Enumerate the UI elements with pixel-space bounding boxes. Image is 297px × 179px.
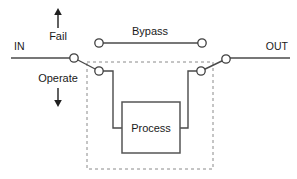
operate-label: Operate <box>38 72 78 84</box>
left-process-connector <box>99 71 122 128</box>
left-switch-contact-terminal[interactable] <box>95 67 103 75</box>
bypass-left-terminal[interactable] <box>95 39 103 47</box>
bypass-label: Bypass <box>132 25 169 37</box>
process-bypass-switch-diagram: IN OUT Bypass Fail Operate Process <box>0 0 297 179</box>
right-switch-contact-terminal[interactable] <box>197 67 205 75</box>
output-label: OUT <box>266 40 289 52</box>
right-switch-pivot-terminal[interactable] <box>222 55 230 63</box>
operate-arrow-head-icon <box>54 100 62 107</box>
fail-arrow-head-icon <box>54 8 62 15</box>
right-process-connector <box>180 71 201 128</box>
input-label: IN <box>14 40 25 52</box>
process-label: Process <box>131 122 171 134</box>
left-switch-pivot-terminal[interactable] <box>70 54 78 62</box>
schematic-canvas: IN OUT Bypass Fail Operate Process <box>0 0 297 179</box>
fail-label: Fail <box>49 30 67 42</box>
bypass-right-terminal[interactable] <box>198 39 206 47</box>
